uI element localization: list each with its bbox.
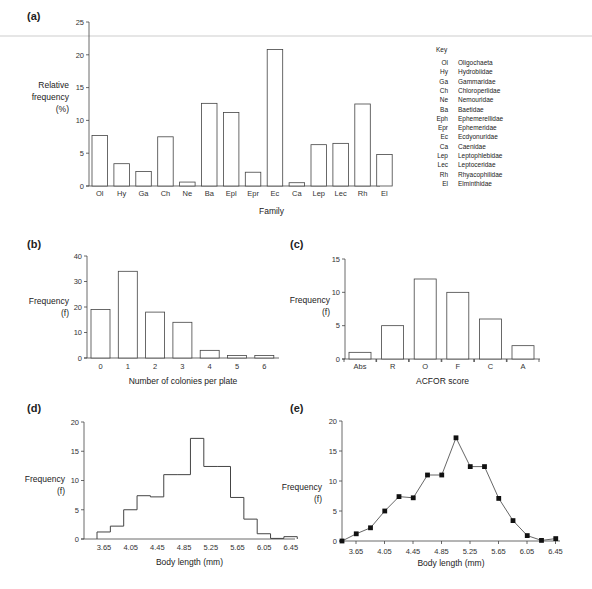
y-tick-label: 5: [75, 506, 79, 515]
y-tick-label: 10: [71, 476, 79, 485]
legend-name: Baetidae: [458, 106, 484, 113]
bar: [118, 271, 137, 358]
legend-name: Ephemeridae: [458, 124, 497, 132]
x-tick-label: Lep: [312, 189, 325, 198]
y-axis-label: frequency: [32, 92, 70, 102]
histogram-steps: [97, 438, 297, 539]
legend-name: Hydrobiidae: [458, 68, 493, 76]
legend-abbr: Rh: [440, 171, 449, 178]
panel-label: (c): [290, 238, 304, 250]
bar: [512, 346, 534, 359]
legend-abbr: Ol: [442, 59, 449, 66]
legend-name: Gammaridae: [458, 78, 496, 85]
y-axis-label: Frequency: [282, 482, 323, 492]
x-tick-label: 6.05: [257, 543, 272, 552]
square-marker: [496, 496, 501, 501]
x-tick-label: Abs: [354, 362, 367, 371]
y-tick-label: 10: [76, 116, 84, 125]
chart-panel-b: (b)010203040Frequency(f)Number of coloni…: [27, 238, 279, 386]
bar: [114, 164, 129, 186]
y-axis-label: Frequency: [290, 295, 331, 305]
x-axis-label: Number of colonies per plate: [129, 376, 238, 386]
x-tick-label: F: [456, 362, 461, 371]
square-marker: [397, 494, 402, 499]
x-axis-label: ACFOR score: [416, 376, 469, 386]
y-tick-label: 0: [333, 537, 337, 546]
chart-panel-d: (d)05101520Frequency(f)Body length (mm)3…: [25, 402, 298, 567]
square-marker: [425, 473, 430, 478]
x-tick-label: 3.65: [97, 543, 112, 552]
square-marker: [439, 473, 444, 478]
bar: [311, 145, 327, 186]
x-tick-label: O: [422, 362, 428, 371]
x-tick-label: Ec: [271, 189, 280, 198]
x-axis-label: Body length (mm): [156, 557, 223, 567]
legend-name: Elminthidae: [458, 180, 492, 187]
square-marker: [340, 539, 345, 544]
legend-abbr: El: [442, 180, 448, 187]
legend-name: Ecdyonuridae: [458, 133, 498, 141]
legend-name: Leptophlebidae: [458, 152, 503, 160]
y-tick-label: 30: [74, 277, 82, 286]
x-tick-label: 5.25: [203, 543, 218, 552]
y-axis-label: (f): [314, 494, 322, 504]
bar: [382, 326, 404, 359]
bar: [180, 182, 196, 186]
x-tick-label: 4.05: [123, 543, 138, 552]
chart-panel-a: (a)0510152025Relativefrequency(%)FamilyO…: [27, 10, 504, 216]
y-tick-label: 15: [329, 447, 337, 456]
panel-label: (a): [27, 10, 41, 22]
x-tick-label: Ne: [183, 189, 193, 198]
square-marker: [382, 509, 387, 514]
y-tick-label: 5: [336, 321, 340, 330]
x-tick-label: 0: [98, 362, 102, 371]
x-tick-label: 6.05: [520, 547, 535, 556]
x-tick-label: Ch: [161, 189, 171, 198]
bar: [289, 183, 305, 186]
y-tick-label: 20: [76, 51, 84, 60]
bar: [91, 310, 110, 358]
y-tick-label: 15: [71, 447, 79, 456]
y-axis-label: Frequency: [25, 474, 66, 484]
legend-name: Ephemerellidae: [458, 115, 504, 123]
y-tick-label: 15: [76, 83, 84, 92]
x-tick-label: Ga: [139, 189, 150, 198]
legend-abbr: Lec: [438, 161, 449, 168]
bar: [255, 355, 274, 358]
legend-abbr: Ga: [439, 78, 448, 85]
legend-abbr: Ne: [440, 96, 449, 103]
y-tick-label: 0: [336, 355, 340, 364]
x-tick-label: Lec: [335, 189, 347, 198]
bar: [136, 172, 152, 186]
y-tick-label: 10: [329, 477, 337, 486]
bar: [146, 312, 165, 358]
legend-title: Key: [436, 46, 448, 54]
frequency-polygon-line: [342, 438, 556, 541]
square-marker: [411, 495, 416, 500]
square-marker: [553, 536, 558, 541]
legend-abbr: Ba: [440, 106, 448, 113]
y-axis-label: (%): [56, 104, 69, 114]
bar: [355, 104, 371, 186]
x-tick-label: 4.85: [434, 547, 449, 556]
bar: [414, 279, 436, 359]
y-tick-label: 10: [74, 328, 82, 337]
legend-abbr: Epr: [438, 124, 449, 132]
bar: [333, 143, 349, 186]
legend-name: Rhyacophilidae: [458, 171, 503, 179]
square-marker: [511, 518, 516, 523]
square-marker: [354, 531, 359, 536]
y-tick-label: 20: [74, 303, 82, 312]
bar: [223, 113, 239, 186]
x-tick-label: 5.65: [230, 543, 245, 552]
x-axis-label: Body length (mm): [417, 558, 484, 568]
x-tick-label: 3.65: [349, 547, 364, 556]
x-tick-label: 2: [153, 362, 157, 371]
square-marker: [482, 464, 487, 469]
y-axis-label: Frequency: [29, 296, 70, 306]
square-marker: [539, 538, 544, 543]
y-tick-label: 5: [333, 507, 337, 516]
bar: [377, 155, 393, 186]
y-axis-label: Relative: [38, 80, 69, 90]
y-tick-label: 40: [74, 252, 82, 261]
